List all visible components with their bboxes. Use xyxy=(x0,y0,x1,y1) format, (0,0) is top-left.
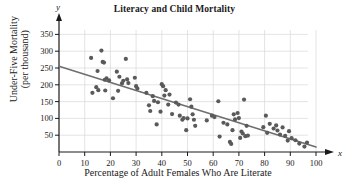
y-axis-label: Under-Five Mortality (per thousand) xyxy=(8,0,30,129)
data-point xyxy=(191,112,195,116)
data-point xyxy=(107,78,111,82)
y-axis-variable-label: y xyxy=(55,2,60,12)
data-point xyxy=(286,138,290,142)
y-axis-tick-label: 100 xyxy=(40,113,53,123)
data-point xyxy=(89,56,93,60)
data-point xyxy=(225,122,229,126)
data-point xyxy=(133,76,137,80)
data-point xyxy=(278,132,282,136)
data-point xyxy=(96,88,100,92)
data-point xyxy=(182,116,186,120)
data-point xyxy=(156,100,160,104)
data-point xyxy=(166,103,170,107)
x-axis-label: Percentage of Adult Females Who Are Lite… xyxy=(18,167,338,178)
data-point xyxy=(246,133,250,137)
data-point xyxy=(205,118,209,122)
data-point xyxy=(192,118,196,122)
data-point xyxy=(178,114,182,118)
data-point xyxy=(280,125,284,129)
data-point xyxy=(265,131,269,135)
data-point xyxy=(167,92,171,96)
data-point xyxy=(264,114,268,118)
x-axis-arrowhead xyxy=(325,149,334,155)
data-point xyxy=(152,99,156,103)
data-point xyxy=(229,142,233,146)
literacy-child-mortality-figure: Literacy and Child Mortality xy010203040… xyxy=(0,0,349,188)
data-point xyxy=(111,96,115,100)
data-point xyxy=(230,128,234,132)
data-point xyxy=(176,103,180,107)
data-point xyxy=(274,123,278,127)
data-point xyxy=(144,91,148,95)
data-point xyxy=(212,115,216,119)
data-point xyxy=(242,97,246,101)
data-point xyxy=(232,112,236,116)
data-point xyxy=(151,94,155,98)
data-point xyxy=(117,75,121,79)
data-point xyxy=(158,110,162,114)
data-point xyxy=(305,140,309,144)
data-point xyxy=(297,142,301,146)
data-point xyxy=(275,128,279,132)
data-point xyxy=(218,134,222,138)
data-point xyxy=(221,121,225,125)
y-axis-tick-label: 250 xyxy=(40,63,53,73)
data-point xyxy=(99,48,103,52)
y-axis-arrowhead xyxy=(56,13,62,21)
data-point xyxy=(302,145,306,149)
data-point xyxy=(103,88,107,92)
data-point xyxy=(102,61,106,65)
data-point xyxy=(148,109,152,113)
data-point xyxy=(155,122,159,126)
y-axis-tick-label: 50 xyxy=(45,130,54,140)
data-point xyxy=(116,89,120,93)
y-axis-label-line1: Under-Five Mortality xyxy=(8,16,19,102)
x-axis-variable-label: x xyxy=(337,148,342,158)
data-point xyxy=(121,79,125,83)
data-point xyxy=(236,111,240,115)
data-point xyxy=(170,112,174,116)
data-point xyxy=(289,136,293,140)
data-point xyxy=(283,134,287,138)
data-point xyxy=(185,116,189,120)
y-axis-tick-label: 150 xyxy=(40,97,53,107)
data-point xyxy=(237,116,241,120)
data-point xyxy=(115,70,119,74)
data-point xyxy=(268,122,272,126)
data-point xyxy=(287,129,291,133)
data-point xyxy=(124,57,128,61)
data-point xyxy=(245,124,249,128)
data-point xyxy=(95,69,99,73)
data-point xyxy=(164,88,168,92)
y-axis-tick-label: 350 xyxy=(40,29,53,39)
data-point xyxy=(189,105,193,109)
data-point xyxy=(261,125,265,129)
data-point xyxy=(293,138,297,142)
y-axis-label-line2: (per thousand) xyxy=(19,30,30,88)
data-point xyxy=(184,128,188,132)
data-point xyxy=(147,103,151,107)
data-point xyxy=(216,99,220,103)
data-point xyxy=(126,81,130,85)
data-point xyxy=(125,77,129,81)
data-point xyxy=(233,117,237,121)
data-point xyxy=(188,97,192,101)
data-point xyxy=(162,93,166,97)
scatter-plot: xy01020304050607080901005010015020025030… xyxy=(0,0,349,188)
data-point xyxy=(238,136,242,140)
data-point xyxy=(135,86,139,90)
y-axis-tick-label: 300 xyxy=(40,46,53,56)
data-point xyxy=(90,91,94,95)
data-point xyxy=(161,84,165,88)
data-point xyxy=(193,124,197,128)
y-axis-tick-label: 200 xyxy=(40,80,53,90)
